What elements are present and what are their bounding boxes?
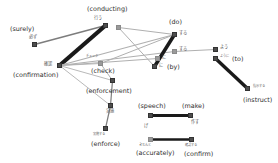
node-label-jp-surely: 必ず [29, 35, 37, 39]
node-label-en-accurately: (accurately) [136, 150, 175, 156]
alignment-edge [35, 26, 106, 45]
graph-node-enforcement[interactable] [110, 78, 115, 83]
alignment-graph-canvas: 必ず(surely)行う(conducting)確認(confirmation)… [0, 0, 278, 163]
node-label-jp-suru2: する [179, 47, 187, 51]
graph-node-accurately[interactable] [148, 137, 153, 142]
node-label-en-confirm: (confirm) [184, 151, 213, 157]
graph-node-to[interactable] [213, 56, 218, 61]
graph-node-you[interactable] [213, 47, 218, 52]
node-label-en-enforcement: (enforcement) [86, 88, 132, 94]
alignment-edge [60, 26, 106, 66]
node-label-jp-check: チェック [86, 55, 98, 58]
node-label-jp-enforce: 実施する [93, 133, 105, 136]
node-label-jp-you: よう [220, 45, 228, 49]
node-label-en-make: (make) [182, 103, 205, 109]
alignment-edge [119, 28, 155, 67]
node-label-en-enforce: (enforce) [91, 141, 120, 147]
graph-node-do[interactable] [172, 32, 177, 37]
graph-node-enforce[interactable] [103, 126, 108, 131]
graph-node-conducting2[interactable] [116, 25, 121, 30]
node-label-en-to: (to) [232, 56, 243, 62]
node-label-jp-make: 作す [191, 120, 199, 124]
graph-node-conducting[interactable] [103, 23, 108, 28]
node-label-jp-confirmation: 確認 [44, 62, 52, 66]
alignment-edge [119, 28, 175, 35]
node-label-jp-accurately: きちんと [139, 144, 151, 147]
node-label-jp-by2: に [159, 63, 163, 67]
graph-node-check[interactable] [98, 61, 103, 66]
node-label-jp-conducting: 行う [94, 16, 102, 20]
node-label-jp-to: ように [220, 55, 229, 58]
graph-node-confirmation[interactable] [57, 63, 62, 68]
node-label-en-by2: (by) [167, 64, 180, 70]
node-label-en-surely: (surely) [10, 26, 34, 32]
alignment-edge [60, 64, 101, 66]
node-label-en-instruct: (instruct) [243, 97, 272, 103]
node-label-jp-instruct: 指示する [253, 85, 265, 88]
edge-layer [0, 0, 278, 163]
graph-node-surely[interactable] [32, 42, 37, 47]
node-label-jp-by1: に [162, 55, 166, 59]
node-label-en-do: (do) [169, 19, 182, 25]
graph-node-by2[interactable] [152, 64, 157, 69]
graph-node-by1[interactable] [155, 56, 160, 61]
node-label-en-check: (check) [91, 68, 115, 74]
node-label-en-conducting: (conducting) [87, 6, 127, 12]
graph-node-suru2[interactable] [172, 49, 177, 54]
alignment-edge [60, 59, 158, 66]
node-label-jp-enforce_mid: 実施 [106, 109, 114, 113]
node-label-jp-speech_jp: げ [144, 124, 148, 128]
graph-node-instruct[interactable] [245, 86, 250, 91]
node-label-en-confirmation: (confirmation) [13, 72, 58, 78]
node-label-jp-do: する [179, 31, 187, 35]
graph-node-make[interactable] [188, 113, 193, 118]
graph-node-speech_jp[interactable] [148, 113, 153, 118]
node-label-en-speech: (speech) [138, 103, 166, 109]
alignment-edge [216, 59, 248, 89]
node-label-jp-confirm: 確認する [185, 144, 197, 147]
graph-node-confirm[interactable] [189, 137, 194, 142]
